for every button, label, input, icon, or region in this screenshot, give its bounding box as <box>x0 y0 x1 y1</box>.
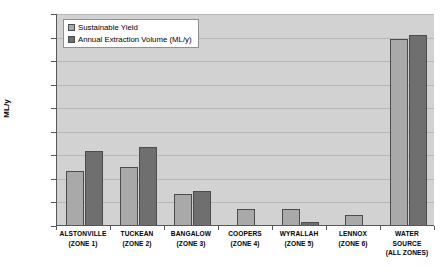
bar <box>409 35 427 225</box>
x-axis-category-label: LENNOX(ZONE 6) <box>326 229 380 248</box>
bar <box>174 194 192 225</box>
x-axis-category-label: COOPERS(ZONE 4) <box>218 229 272 248</box>
bar-group <box>381 14 435 225</box>
legend-swatch-icon <box>68 24 75 31</box>
y-axis-title: ML/y <box>2 85 11 133</box>
x-axis-category-label: BANGALOW(ZONE 3) <box>164 229 218 248</box>
legend-item-label: Sustainable Yield <box>78 23 138 32</box>
bar <box>66 171 84 225</box>
bar <box>193 191 211 225</box>
bar-group <box>327 14 381 225</box>
bar-chart: ML/y 01000200030004000500060007000800090… <box>0 0 443 275</box>
bar <box>390 39 408 225</box>
legend-swatch-icon <box>68 36 75 43</box>
legend-item-label: Annual Extraction Volume (ML/y) <box>78 35 192 44</box>
bar <box>120 167 138 225</box>
bar <box>301 222 319 225</box>
x-axis-category-label: ALSTONVILLE(ZONE 1) <box>56 229 110 248</box>
bar <box>139 147 157 225</box>
bar-group <box>219 14 273 225</box>
x-axis-category-label: WYRALLAH(ZONE 5) <box>272 229 326 248</box>
legend-item: Annual Extraction Volume (ML/y) <box>68 35 192 44</box>
legend: Sustainable Yield Annual Extraction Volu… <box>63 19 199 48</box>
bar <box>345 215 363 225</box>
x-axis-labels: ALSTONVILLE(ZONE 1)TUCKEAN(ZONE 2)BANGAL… <box>56 229 434 259</box>
bar <box>85 151 103 225</box>
bar <box>237 209 255 225</box>
bar <box>282 209 300 225</box>
x-axis-category-label: TUCKEAN(ZONE 2) <box>110 229 164 248</box>
x-axis-tick-mark <box>434 226 435 230</box>
legend-item: Sustainable Yield <box>68 23 192 32</box>
x-axis-category-label: WATER SOURCE(ALL ZONES) <box>380 229 434 258</box>
bar-group <box>273 14 327 225</box>
